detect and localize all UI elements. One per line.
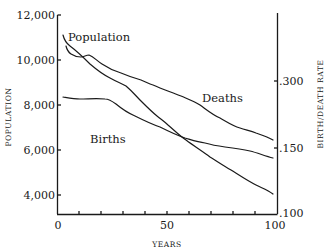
y-tick-label: 8,000 [24, 99, 56, 112]
y2-tick-label: .150 [279, 142, 304, 155]
left-y-axis: 12,000 10,000 8,000 6,000 4,000 POPULATI… [4, 9, 61, 214]
x-tick-label: 50 [160, 219, 174, 232]
y2-tick-label: .100 [279, 207, 304, 220]
births-label: Births [90, 132, 126, 146]
y-tick-label: 12,000 [17, 9, 56, 22]
x-tick-label: 0 [55, 219, 62, 232]
right-y-axis: .300 .150 .100 BIRTH/DEATH RATE [274, 13, 325, 220]
series-curves [63, 35, 273, 194]
y-tick-label: 10,000 [17, 54, 56, 67]
y-tick-label: 6,000 [24, 144, 56, 157]
y-axis-title: POPULATION [4, 87, 13, 146]
x-axis-title: YEARS [151, 240, 182, 249]
x-tick-label: 100 [265, 219, 286, 232]
y2-tick-label: .300 [279, 75, 304, 88]
deaths-label: Deaths [202, 91, 243, 105]
births-curve [63, 97, 273, 158]
y2-axis-title: BIRTH/DEATH RATE [316, 59, 325, 148]
y-tick-label: 4,000 [24, 189, 56, 202]
population-label: Population [68, 30, 131, 44]
x-axis: 0 50 100 YEARS [55, 211, 286, 249]
chart-canvas: 12,000 10,000 8,000 6,000 4,000 POPULATI… [0, 0, 332, 250]
